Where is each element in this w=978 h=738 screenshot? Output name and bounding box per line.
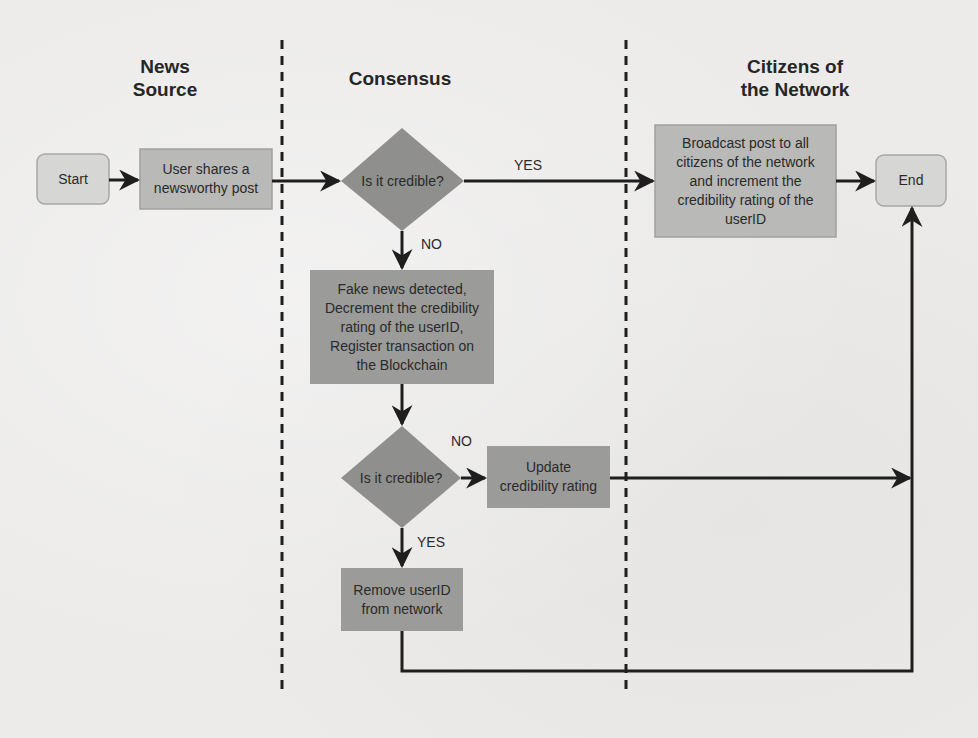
decision1-label: Is it credible? [341,166,464,196]
decision2-label: Is it credible? [341,463,461,493]
end-label: End [876,155,946,206]
share-post-label: User shares a newsworthy post [140,149,272,209]
broadcast-label: Broadcast post to all citizens of the ne… [655,125,836,237]
remove-user-label: Remove userID from network [341,568,463,631]
lane-title-news-source: News Source [105,55,225,101]
lane-title-consensus: Consensus [330,67,470,90]
edge-label-d2-no: NO [451,433,472,449]
fake-news-label: Fake news detected, Decrement the credib… [310,270,494,384]
edge-label-d1-no: NO [421,236,442,252]
start-label: Start [37,154,109,204]
edge-label-d1-yes: YES [514,157,542,173]
update-rating-label: Update credibility rating [487,446,610,508]
lane-title-citizens: Citizens of the Network [710,55,880,101]
edge-label-d2-yes: YES [417,534,445,550]
